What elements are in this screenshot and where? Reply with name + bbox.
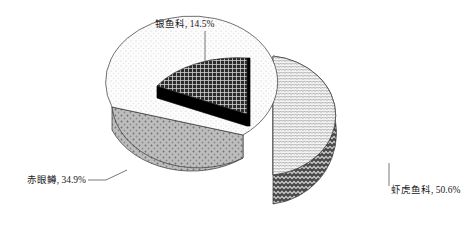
pie-chart: 银鱼科, 14.5% 赤眼鳟, 34.9% 虾虎鱼科, 50.6% (0, 0, 476, 235)
pie-label-chiyanzun: 赤眼鳟, 34.9% (27, 174, 86, 185)
pie-chart-canvas: 银鱼科, 14.5% 赤眼鳟, 34.9% 虾虎鱼科, 50.6% (0, 0, 476, 235)
pie-label-xiahuyuke: 虾虎鱼科, 50.6% (391, 184, 460, 195)
pie-slice-yinyuke-wall (247, 58, 250, 126)
pie-label-yinyuke: 银鱼科, 14.5% (155, 18, 214, 29)
